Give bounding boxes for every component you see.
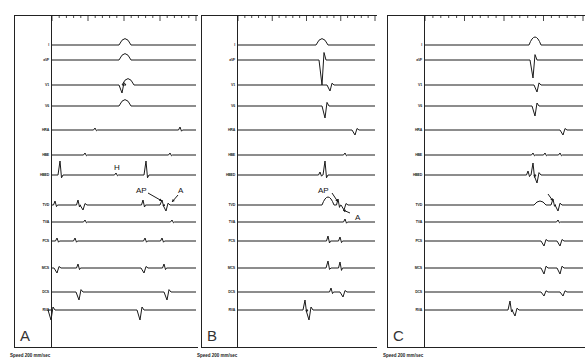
trace-avf [425, 55, 583, 78]
trace-hbe [425, 153, 583, 156]
trace-tvd [425, 199, 583, 211]
speed-label: Speed 200 mm/sec [383, 353, 423, 358]
trace-hbed [425, 163, 583, 183]
trace-rva [425, 301, 583, 316]
traces-c [0, 0, 585, 364]
trace-hra [425, 129, 583, 136]
trace-v6 [425, 103, 583, 116]
trace-v1 [425, 83, 583, 92]
trace-dcs [425, 291, 583, 296]
trace-mcs [425, 266, 583, 274]
trace-i [425, 37, 583, 45]
trace-pcs [425, 240, 583, 247]
trace-tva [425, 220, 583, 223]
